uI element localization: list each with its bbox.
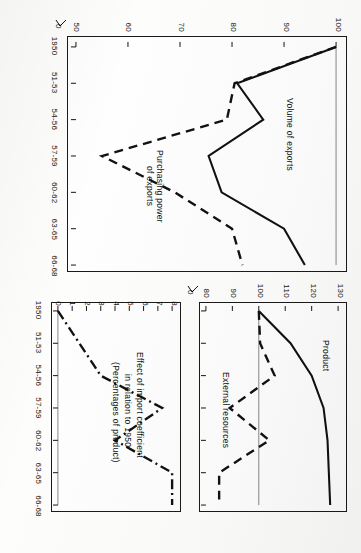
- x-tick-label: 1950: [34, 293, 43, 327]
- y-tick-label: 80: [202, 276, 211, 298]
- y-tick-label: 90: [229, 276, 238, 298]
- y-tick-label: 100: [334, 10, 343, 32]
- y-tick-label: 90: [282, 10, 291, 32]
- y-tick-label: 80: [229, 10, 238, 32]
- label-import-coefficient-line2: in relation to 1950: [123, 374, 133, 447]
- y-tick-label: 7: [156, 284, 165, 306]
- y-tick-label: 2: [83, 284, 92, 306]
- y-tick-label: 1: [69, 284, 78, 306]
- y-tick-label: 3: [98, 284, 107, 306]
- label-import-coefficient-line1: Effect of import coefficient: [135, 352, 145, 458]
- label-purchasing-power-line2: of exports: [145, 166, 155, 206]
- label-import-coefficient-line3: (Percentages of product): [111, 362, 121, 463]
- y-tick-label: 8: [170, 284, 179, 306]
- y-tick-label: 70: [177, 10, 186, 32]
- y-tick-label: 50: [72, 10, 81, 32]
- panel-exports: [67, 36, 347, 272]
- x-tick-label: 63-65: [50, 212, 59, 246]
- y-tick-label: 130: [336, 276, 345, 298]
- x-tick-label: 60-62: [50, 176, 59, 210]
- y-tick-label: 110: [282, 276, 291, 298]
- x-tick-label: 66-68: [34, 489, 43, 523]
- exports-plot: [68, 37, 346, 271]
- y-tick-label: 4: [112, 284, 121, 306]
- label-product: Product: [321, 340, 331, 371]
- y-tick-label: 6: [141, 284, 150, 306]
- figure-stage: 1009080706050 195051-5354-5657-5960-6263…: [0, 0, 361, 553]
- label-volume-of-exports: Volume of exports: [285, 98, 295, 171]
- x-tick-label: 57-59: [50, 139, 59, 173]
- exports-axis-break-icon: [51, 18, 69, 40]
- label-external-resources: External resources: [221, 372, 231, 448]
- product-axis-break-icon: [183, 284, 201, 306]
- x-tick-label: 54-56: [34, 358, 43, 392]
- figure-frame: 1009080706050 195051-5354-5657-5960-6263…: [0, 0, 361, 553]
- x-tick-label: 63-65: [34, 456, 43, 490]
- y-tick-label: 0: [54, 284, 63, 306]
- x-tick-label: 60-62: [34, 424, 43, 458]
- y-tick-label: 120: [309, 276, 318, 298]
- x-tick-label: 66-68: [50, 249, 59, 283]
- y-tick-label: 60: [124, 10, 133, 32]
- x-tick-label: 51-53: [50, 66, 59, 100]
- x-tick-label: 51-53: [34, 326, 43, 360]
- y-tick-label: 100: [256, 276, 265, 298]
- x-tick-label: 57-59: [34, 391, 43, 425]
- y-tick-label: 5: [127, 284, 136, 306]
- x-tick-label: 54-56: [50, 102, 59, 136]
- label-purchasing-power-line1: Purchasing power: [155, 150, 165, 223]
